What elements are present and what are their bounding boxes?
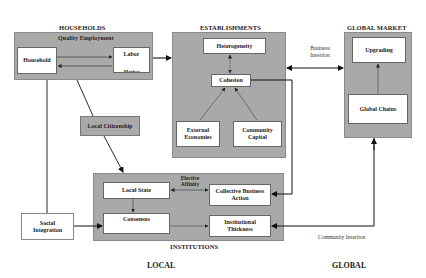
- elective-affinity-line2: Affinity: [172, 181, 208, 187]
- business-insertion-label: Business Insertion: [300, 45, 340, 59]
- global-chains-node: Global Chains: [348, 94, 408, 124]
- external-economies-label-line2: Economies: [184, 134, 212, 141]
- local-scale-label: LOCAL: [147, 261, 175, 270]
- community-capital-node: Community Capital: [233, 121, 282, 147]
- collective-business-action-node: Collective Business Action: [209, 184, 271, 206]
- business-insertion-line2: Insertion: [300, 52, 340, 59]
- labor-market-label-line2: Market: [123, 68, 139, 73]
- external-economies-node: External Economies: [176, 121, 220, 147]
- community-capital-label-line1: Community: [242, 127, 273, 134]
- household-node: Household: [17, 47, 57, 74]
- institutional-thickness-node: Institutional Thickness: [209, 215, 271, 237]
- social-integration-node: Social Integration: [21, 213, 74, 240]
- global-scale-label: GLOBAL: [332, 261, 366, 270]
- household-label: Household: [23, 57, 50, 64]
- upgrading-label: Upgrading: [365, 47, 393, 54]
- business-insertion-line1: Business: [300, 45, 340, 52]
- upgrading-node: Upgrading: [352, 37, 406, 63]
- labor-market-node: Labor Market: [113, 47, 150, 73]
- heterogeneity-label: Heterogeneity: [217, 43, 253, 50]
- community-capital-label-line2: Capital: [248, 134, 267, 141]
- community-insertion-label: Community Insertion: [318, 234, 365, 241]
- collective-business-action-label-line1: Collective Business: [216, 188, 265, 195]
- cohesion-label: Cohesion: [219, 77, 243, 84]
- global-chains-label: Global Chains: [360, 106, 397, 113]
- labor-market-label-line1: Labor: [123, 51, 139, 58]
- local-citizenship-label: Local Citizenship: [88, 123, 133, 130]
- local-state-node: Local State: [103, 182, 170, 199]
- social-integration-label-line1: Social: [40, 220, 55, 227]
- heterogeneity-node: Heterogeneity: [203, 38, 266, 54]
- cohesion-node: Cohesion: [211, 74, 251, 87]
- collective-business-action-label-line2: Action: [232, 195, 249, 202]
- consensus-label: Consensus: [123, 216, 150, 223]
- elective-affinity-label: Elective Affinity: [172, 175, 208, 187]
- local-citizenship-node: Local Citizenship: [80, 116, 140, 136]
- institutional-thickness-label-line2: Thickness: [227, 226, 253, 233]
- social-integration-label-line2: Integration: [33, 227, 62, 234]
- external-economies-label-line1: External: [187, 127, 209, 134]
- consensus-node: Consensus: [103, 213, 170, 234]
- local-state-label: Local State: [122, 187, 151, 194]
- institutional-thickness-label-line1: Institutional: [224, 219, 256, 226]
